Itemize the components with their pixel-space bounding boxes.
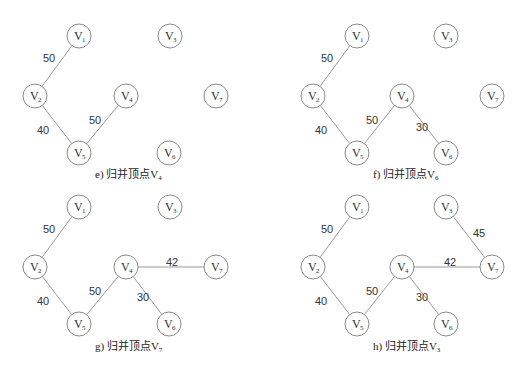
vertex-v7: V7 — [480, 84, 504, 108]
vertex-v4: V4 — [390, 84, 414, 108]
vertex-v2: V2 — [301, 255, 325, 279]
vertex-subscript: 5 — [82, 153, 86, 161]
panel-caption: e) 归并顶点V4 — [95, 167, 162, 182]
edge-weight-label: 30 — [137, 291, 149, 303]
vertex-v3: V3 — [158, 195, 182, 219]
vertex-subscript: 4 — [405, 96, 409, 104]
vertex-v5: V5 — [345, 312, 369, 336]
vertex-v1: V1 — [67, 195, 91, 219]
edge-weight-label: 30 — [416, 291, 428, 303]
vertex-subscript: 7 — [219, 267, 223, 275]
edge-weight-label: 50 — [43, 52, 55, 64]
vertex-v7: V7 — [204, 84, 228, 108]
panel-caption: f) 归并顶点V6 — [373, 167, 439, 182]
vertex-v4: V4 — [390, 255, 414, 279]
vertex-subscript: 1 — [82, 207, 86, 215]
vertex-subscript: 4 — [129, 267, 133, 275]
vertex-subscript: 1 — [360, 36, 364, 44]
vertex-subscript: 3 — [449, 36, 453, 44]
edge-weight-label: 42 — [166, 256, 178, 268]
vertex-v6: V6 — [434, 141, 458, 165]
vertex-subscript: 7 — [219, 96, 223, 104]
vertex-subscript: 3 — [173, 207, 177, 215]
vertex-subscript: 2 — [316, 267, 320, 275]
panel-caption: g) 归并顶点V7 — [95, 339, 163, 354]
edge-weight-label: 50 — [366, 114, 378, 126]
edge-weight-label: 50 — [43, 223, 55, 235]
edge-weight-label: 50 — [321, 223, 333, 235]
edge-weight-label: 50 — [89, 285, 101, 297]
vertex-subscript: 1 — [82, 36, 86, 44]
vertex-v1: V1 — [345, 195, 369, 219]
edge-weight-label: 40 — [37, 124, 49, 136]
panel-caption: h) 归并顶点V3 — [373, 339, 441, 354]
vertex-v3: V3 — [434, 195, 458, 219]
vertex-subscript: 5 — [360, 324, 364, 332]
vertex-v7: V7 — [480, 255, 504, 279]
edge-weight-label: 50 — [321, 52, 333, 64]
vertex-v7: V7 — [204, 255, 228, 279]
vertex-v4: V4 — [114, 255, 138, 279]
vertex-v5: V5 — [67, 312, 91, 336]
vertex-subscript: 2 — [38, 267, 42, 275]
vertex-subscript: 7 — [495, 267, 499, 275]
vertex-v4: V4 — [114, 84, 138, 108]
edge-weight-label: 40 — [315, 295, 327, 307]
vertex-subscript: 6 — [449, 324, 453, 332]
vertex-v1: V1 — [67, 24, 91, 48]
vertex-subscript: 3 — [173, 36, 177, 44]
vertex-subscript: 7 — [495, 96, 499, 104]
panel-g: 5040503042V1V2V3V4V5V6V7g) 归并顶点V7 — [23, 195, 228, 354]
vertex-v2: V2 — [301, 84, 325, 108]
edge-weight-label: 42 — [444, 256, 456, 268]
vertex-v6: V6 — [157, 312, 181, 336]
panel-e: 504050V1V2V3V4V5V6V7e) 归并顶点V4 — [23, 24, 228, 182]
vertex-subscript: 6 — [449, 153, 453, 161]
vertex-v2: V2 — [23, 84, 47, 108]
vertex-subscript: 6 — [172, 153, 176, 161]
panel-f: 50405030V1V2V3V4V5V6V7f) 归并顶点V6 — [301, 24, 504, 182]
vertex-subscript: 5 — [360, 153, 364, 161]
vertex-v6: V6 — [157, 141, 181, 165]
vertex-subscript: 2 — [316, 96, 320, 104]
edge-weight-label: 40 — [37, 295, 49, 307]
edge-weight-label: 50 — [366, 285, 378, 297]
edge-weight-label: 40 — [315, 124, 327, 136]
vertex-subscript: 4 — [129, 96, 133, 104]
vertex-v6: V6 — [434, 312, 458, 336]
vertex-subscript: 3 — [449, 207, 453, 215]
vertex-v1: V1 — [345, 24, 369, 48]
panel-h: 504050304245V1V2V3V4V5V6V7h) 归并顶点V3 — [301, 195, 504, 354]
vertex-v5: V5 — [345, 141, 369, 165]
mst-kruskal-diagram: 504050V1V2V3V4V5V6V7e) 归并顶点V450405030V1V… — [0, 0, 521, 376]
vertex-subscript: 6 — [172, 324, 176, 332]
vertex-subscript: 1 — [360, 207, 364, 215]
edge-weight-label: 50 — [89, 114, 101, 126]
vertex-subscript: 2 — [38, 96, 42, 104]
vertex-subscript: 5 — [82, 324, 86, 332]
vertex-v5: V5 — [67, 141, 91, 165]
edge-weight-label: 45 — [473, 227, 485, 239]
edge-weight-label: 30 — [416, 121, 428, 133]
vertex-v3: V3 — [434, 24, 458, 48]
vertex-v2: V2 — [23, 255, 47, 279]
vertex-subscript: 4 — [405, 267, 409, 275]
vertex-v3: V3 — [158, 24, 182, 48]
